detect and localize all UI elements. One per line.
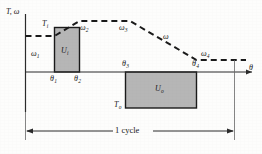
omega-curve-label: ω bbox=[163, 33, 169, 41]
omega-2-symbol: ω bbox=[80, 23, 86, 32]
theta-3-label: θ3 bbox=[122, 60, 129, 68]
omega-3-label: ω3 bbox=[119, 24, 127, 32]
theta-2-label: θ2 bbox=[74, 75, 81, 83]
theta-3-subscript: 3 bbox=[126, 63, 129, 69]
theta-1-subscript: 1 bbox=[54, 78, 57, 84]
omega-4-label: ω4 bbox=[201, 50, 209, 58]
x-axis-label: θ bbox=[249, 64, 253, 72]
output-area-subscript: o bbox=[161, 88, 164, 94]
omega-1-symbol: ω bbox=[31, 49, 37, 58]
cycle-arrow-left-head bbox=[26, 128, 33, 133]
theta-4-label: θ4 bbox=[192, 60, 199, 68]
omega-2-subscript: 2 bbox=[86, 27, 89, 33]
input-area-subscript: i bbox=[67, 50, 69, 56]
input-area-label: Ui bbox=[61, 47, 68, 55]
theta-1-label: θ1 bbox=[50, 75, 57, 83]
theta-4-subscript: 4 bbox=[196, 63, 199, 69]
output-torque-subscript: o bbox=[119, 104, 122, 110]
cycle-label: 1 cycle bbox=[115, 126, 139, 135]
theta-2-subscript: 2 bbox=[78, 78, 81, 84]
omega-4-symbol: ω bbox=[201, 49, 207, 58]
torque-speed-diagram: T, ω θ Ti To Ui Uo ω1 ω2 ω3 ω ω4 θ1 θ2 θ… bbox=[0, 0, 262, 154]
omega-3-subscript: 3 bbox=[125, 27, 128, 33]
output-area-symbol: U bbox=[155, 84, 161, 93]
output-torque-symbol: T bbox=[114, 100, 118, 109]
output-area-label: Uo bbox=[155, 85, 164, 93]
cycle-arrow-right-head bbox=[227, 128, 234, 133]
omega-3-symbol: ω bbox=[119, 23, 125, 32]
input-torque-symbol: T bbox=[42, 19, 46, 28]
omega-1-subscript: 1 bbox=[37, 53, 40, 59]
omega-4-subscript: 4 bbox=[207, 53, 210, 59]
input-area-symbol: U bbox=[61, 46, 67, 55]
input-torque-subscript: i bbox=[47, 23, 49, 29]
y-axis-label: T, ω bbox=[6, 8, 20, 16]
omega-1-label: ω1 bbox=[31, 50, 39, 58]
output-torque-label: To bbox=[114, 101, 121, 109]
omega-2-label: ω2 bbox=[80, 24, 88, 32]
input-torque-label: Ti bbox=[42, 20, 48, 28]
